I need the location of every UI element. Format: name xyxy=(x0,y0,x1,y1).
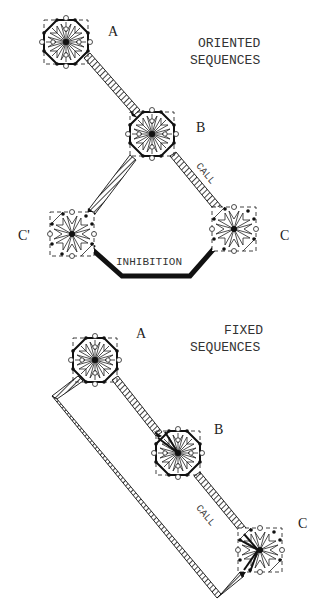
node-label-c: C xyxy=(280,228,289,243)
node-label-a: A xyxy=(108,24,119,39)
edge-a-to-b xyxy=(84,53,140,118)
edge-label-inhibition: INHIBITION xyxy=(116,256,182,268)
edge-label-call: CALL xyxy=(193,503,217,528)
edge-a-to-b xyxy=(112,376,162,438)
panel-oriented-sequences: ORIENTED SEQUENCES CALL INHIBITION A B xyxy=(18,16,289,277)
panel-title-line2: SEQUENCES xyxy=(190,340,260,355)
node-c xyxy=(210,205,259,254)
edge-a-to-c-loop xyxy=(52,376,246,598)
edge-b-to-c xyxy=(170,152,222,214)
panel-title-line1: ORIENTED xyxy=(198,36,261,51)
node-label-b: B xyxy=(196,120,205,135)
node-c xyxy=(236,526,285,575)
node-a xyxy=(40,16,93,69)
panel-fixed-sequences: FIXED SEQUENCES CALL A B xyxy=(52,323,307,598)
node-label-a: A xyxy=(136,326,147,341)
node-label-c-prime: C' xyxy=(18,228,30,243)
panel-title-line2: SEQUENCES xyxy=(190,53,260,68)
edge-b-to-cprime xyxy=(87,155,136,218)
node-c-prime xyxy=(48,210,97,259)
panel-title-line1: FIXED xyxy=(224,323,263,338)
diagram-canvas: ORIENTED SEQUENCES CALL INHIBITION A B xyxy=(0,0,321,607)
node-label-b: B xyxy=(214,422,223,437)
node-label-c: C xyxy=(298,516,307,531)
edge-inhibition xyxy=(82,232,229,276)
